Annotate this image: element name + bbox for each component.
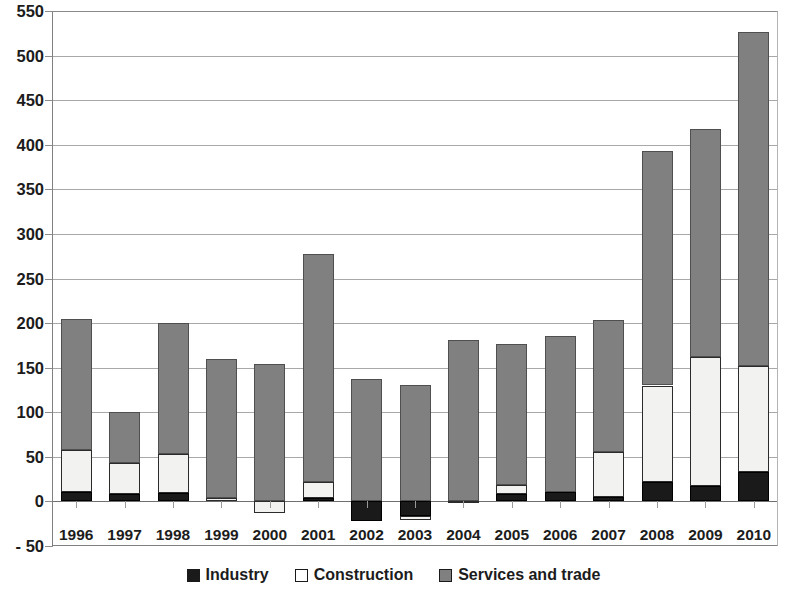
x-axis-tick-mark (415, 501, 416, 508)
y-axis-tick-mark (45, 546, 53, 547)
legend-label: Construction (314, 566, 414, 584)
legend-item: Services and trade (439, 566, 600, 584)
legend-swatch-services-icon (439, 569, 452, 582)
y-axis-tick-label: 200 (0, 314, 44, 333)
y-axis-tick-label: - 50 (0, 537, 44, 556)
x-axis-tick-label: 2001 (294, 526, 342, 544)
x-axis-tick-mark (609, 501, 610, 508)
y-axis-tick-label: 250 (0, 269, 44, 288)
y-axis-tick-label: 150 (0, 358, 44, 377)
x-axis-tick-label: 1997 (100, 526, 148, 544)
chart-legend: IndustryConstructionServices and trade (0, 566, 787, 584)
y-axis-tick-label: 450 (0, 91, 44, 110)
y-axis-tick-label: 300 (0, 224, 44, 243)
legend-swatch-industry-icon (187, 569, 200, 582)
x-axis-tick-label: 2009 (681, 526, 729, 544)
x-axis-tick-mark (221, 501, 222, 508)
y-axis-tick-label: 350 (0, 180, 44, 199)
y-axis-tick-label: 400 (0, 135, 44, 154)
x-axis-tick-mark (125, 501, 126, 508)
legend-swatch-construction-icon (295, 569, 308, 582)
x-axis-tick-label: 1999 (197, 526, 245, 544)
x-axis-tick-mark (173, 501, 174, 508)
x-axis-tick-mark (512, 501, 513, 508)
x-axis-tick-label: 2007 (584, 526, 632, 544)
x-axis-tick-label: 1996 (52, 526, 100, 544)
x-axis-tick-label: 2010 (730, 526, 778, 544)
x-axis-tick-label: 2008 (633, 526, 681, 544)
y-axis-tick-label: 100 (0, 403, 44, 422)
legend-item: Industry (187, 566, 269, 584)
legend-label: Services and trade (458, 566, 600, 584)
x-axis-tick-label: 2002 (342, 526, 390, 544)
stacked-bar-chart: 550500450400350300250200150100500- 50 19… (0, 0, 787, 593)
plot-area (52, 11, 778, 546)
x-axis-tick-mark (367, 501, 368, 508)
x-axis-tick-mark (560, 501, 561, 508)
x-axis-tick-label: 2004 (439, 526, 487, 544)
y-axis-tick-label: 550 (0, 2, 44, 21)
x-axis-tick-mark (76, 501, 77, 508)
x-axis-tick-label: 2000 (246, 526, 294, 544)
x-axis-tick-mark (463, 501, 464, 508)
x-axis-tick-mark (270, 501, 271, 508)
y-axis-tick-label: 0 (0, 492, 44, 511)
y-axis-tick-label: 500 (0, 46, 44, 65)
x-axis-tick-mark (657, 501, 658, 508)
y-axis-tick-label: 50 (0, 447, 44, 466)
x-axis-tick-label: 2006 (536, 526, 584, 544)
legend-label: Industry (206, 566, 269, 584)
x-axis-tick-mark (705, 501, 706, 508)
x-axis-tick-label: 2003 (391, 526, 439, 544)
x-axis-tick-label: 2005 (488, 526, 536, 544)
x-axis-tick-label: 1998 (149, 526, 197, 544)
plot-frame (52, 11, 778, 546)
x-axis-tick-mark (318, 501, 319, 508)
legend-item: Construction (295, 566, 414, 584)
x-axis-tick-mark (754, 501, 755, 508)
